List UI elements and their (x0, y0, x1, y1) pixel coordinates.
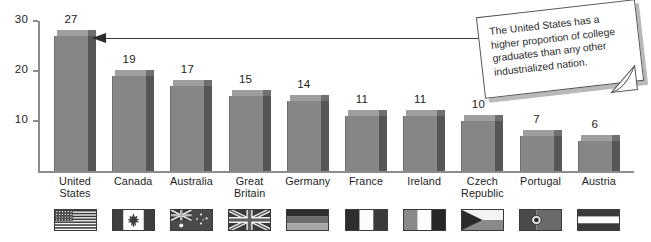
bar-face (345, 116, 379, 171)
bar-top-bevel (379, 110, 387, 116)
bar-top-face (348, 110, 382, 116)
bar-value-label: 11 (400, 93, 440, 105)
bar-top-bevel (437, 110, 445, 116)
category-label-austria: Austria (568, 176, 630, 188)
category-label-australia: Australia (160, 176, 222, 188)
callout-arrow-icon (92, 33, 106, 43)
bar-austria (578, 133, 620, 171)
category-label-line: Republic (451, 188, 513, 200)
flag-united-states (54, 209, 97, 231)
flag-ireland (403, 209, 446, 231)
bar-side-face (321, 101, 329, 171)
bar-top-face (290, 95, 324, 101)
bar-france (345, 108, 387, 171)
bar-germany (287, 93, 329, 171)
bar-face (403, 116, 437, 171)
category-label-line: States (44, 188, 106, 200)
bar-australia (170, 78, 212, 171)
category-label-line: Canada (102, 176, 164, 188)
category-label-united-states: UnitedStates (44, 176, 106, 199)
bar-face (578, 141, 612, 171)
bar-top-face (115, 70, 149, 76)
bar-top-face (406, 110, 440, 116)
bar-face (170, 86, 204, 171)
category-label-line: France (335, 176, 397, 188)
callout-corner-curl-icon (606, 61, 639, 94)
bar-face (54, 36, 88, 171)
bar-side-face (379, 116, 387, 171)
category-label-portugal: Portugal (510, 176, 572, 188)
bar-ireland (403, 108, 445, 171)
flag-canada (112, 209, 155, 231)
bar-top-face (581, 135, 615, 141)
flag-australia (170, 209, 213, 231)
category-label-canada: Canada (102, 176, 164, 188)
category-label-czech-republic: CzechRepublic (451, 176, 513, 199)
bar-value-label: 6 (575, 118, 615, 130)
bar-side-face (146, 76, 154, 171)
bar-value-label: 17 (167, 63, 207, 75)
bar-value-label: 14 (284, 78, 324, 90)
flag-czech-republic (461, 209, 504, 231)
bar-top-face (523, 130, 557, 136)
category-label-line: Australia (160, 176, 222, 188)
bar-top-face (464, 115, 498, 121)
bar-side-face (437, 116, 445, 171)
flag-austria (577, 209, 620, 231)
bar-great-britain (229, 88, 271, 171)
bar-portugal (520, 128, 562, 171)
bar-top-bevel (554, 130, 562, 136)
bar-top-face (232, 90, 266, 96)
bar-czech-republic (461, 113, 503, 171)
flag-france (345, 209, 388, 231)
bar-side-face (554, 136, 562, 171)
bar-face (112, 76, 146, 171)
category-label-line: Germany (277, 176, 339, 188)
bar-top-face (57, 30, 91, 36)
bar-chart: 102030 271917151411111076 UnitedStatesCa… (0, 0, 651, 242)
bar-top-bevel (146, 70, 154, 76)
bar-top-bevel (612, 135, 620, 141)
bar-side-face (263, 96, 271, 171)
bar-value-label: 11 (342, 93, 382, 105)
bar-value-label: 15 (226, 73, 266, 85)
bar-side-face (88, 36, 96, 171)
category-label-great-britain: GreatBritain (219, 176, 281, 199)
flag-great-britain (228, 209, 271, 231)
bar-value-label: 7 (517, 113, 557, 125)
bar-top-bevel (263, 90, 271, 96)
bar-face (461, 121, 495, 171)
flag-germany (286, 209, 329, 231)
bar-side-face (204, 86, 212, 171)
category-label-line: Britain (219, 188, 281, 200)
category-label-line: Czech (451, 176, 513, 188)
category-label-line: Ireland (393, 176, 455, 188)
bar-value-label: 27 (51, 13, 91, 25)
category-label-france: France (335, 176, 397, 188)
category-label-line: Austria (568, 176, 630, 188)
bar-face (520, 136, 554, 171)
bar-top-bevel (495, 115, 503, 121)
category-label-line: Great (219, 176, 281, 188)
bar-side-face (495, 121, 503, 171)
bar-face (229, 96, 263, 171)
bar-top-bevel (321, 95, 329, 101)
category-label-line: United (44, 176, 106, 188)
callout-connector-line (106, 38, 481, 39)
category-label-ireland: Ireland (393, 176, 455, 188)
bar-canada (112, 68, 154, 171)
bar-side-face (612, 141, 620, 171)
bar-top-face (173, 80, 207, 86)
bar-face (287, 101, 321, 171)
category-label-germany: Germany (277, 176, 339, 188)
bar-top-bevel (204, 80, 212, 86)
bar-value-label: 19 (109, 53, 149, 65)
flag-portugal (519, 209, 562, 231)
category-label-line: Portugal (510, 176, 572, 188)
bar-united-states (54, 28, 96, 171)
